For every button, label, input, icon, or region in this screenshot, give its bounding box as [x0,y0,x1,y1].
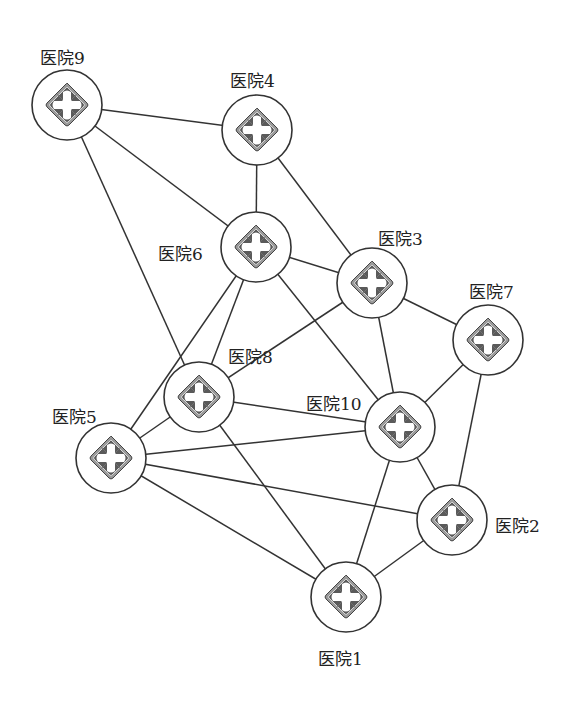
node-label-hospital-3: 医院3 [378,225,423,250]
node-hospital-6 [221,212,291,282]
hospital-network-diagram [0,0,582,703]
node-hospital-10 [365,392,435,462]
node-hospital-9 [32,70,102,140]
node-label-hospital-2: 医院2 [495,512,540,537]
node-label-hospital-5: 医院5 [52,403,97,428]
node-hospital-1 [311,562,381,632]
node-hospital-3 [337,248,407,318]
node-hospital-8 [164,362,234,432]
node-hospital-7 [453,305,523,375]
node-label-hospital-8: 医院8 [228,343,273,368]
nodes-layer [32,70,523,632]
edge-5-10 [111,427,400,458]
node-hospital-4 [222,95,292,165]
node-label-hospital-9: 医院9 [40,44,85,69]
node-label-hospital-4: 医院4 [230,67,275,92]
node-label-hospital-10: 医院10 [306,390,362,415]
node-label-hospital-1: 医院1 [318,645,363,670]
node-label-hospital-7: 医院7 [469,278,514,303]
node-hospital-2 [417,485,487,555]
node-hospital-5 [76,423,146,493]
node-label-hospital-6: 医院6 [158,240,203,265]
